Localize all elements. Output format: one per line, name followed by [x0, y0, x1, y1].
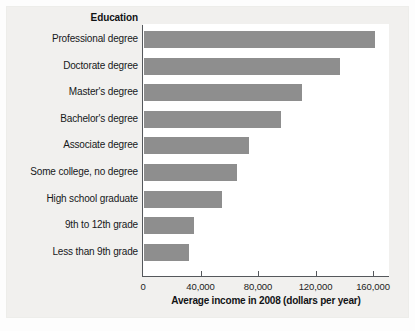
bar	[144, 31, 375, 48]
category-label: Less than 9th grade	[52, 246, 138, 257]
category-label: Professional degree	[52, 33, 138, 44]
x-axis-tick	[201, 271, 202, 277]
x-axis-title: Average income in 2008 (dollars per year…	[143, 295, 389, 306]
x-axis-tick-label: 40,000	[186, 281, 214, 292]
category-label: Bachelor's degree	[60, 113, 138, 124]
category-label: Associate degree	[63, 139, 138, 150]
x-axis-tick	[258, 271, 259, 277]
x-axis-tick-label: 80,000	[244, 281, 272, 292]
bar	[144, 111, 281, 128]
bar	[144, 244, 189, 261]
x-axis-line	[142, 276, 389, 277]
x-axis-tick	[373, 271, 374, 277]
bar	[144, 58, 340, 75]
bar	[144, 137, 249, 154]
bar	[144, 164, 237, 181]
bar	[144, 84, 302, 101]
category-label: 9th to 12th grade	[65, 219, 138, 230]
x-axis-tick-label: 160,000	[356, 281, 390, 292]
category-label: Master's degree	[69, 86, 138, 97]
bar	[144, 217, 194, 234]
x-axis-tick-label: 120,000	[299, 281, 333, 292]
x-axis-tick	[316, 271, 317, 277]
category-label: High school graduate	[46, 193, 138, 204]
category-label: Doctorate degree	[63, 60, 138, 71]
x-axis-tick-label: 0	[140, 281, 145, 292]
category-label: Some college, no degree	[30, 166, 138, 177]
chart-figure: Education Professional degreeDoctorate d…	[0, 0, 415, 331]
category-axis-title: Education	[91, 12, 138, 23]
bar	[144, 191, 222, 208]
